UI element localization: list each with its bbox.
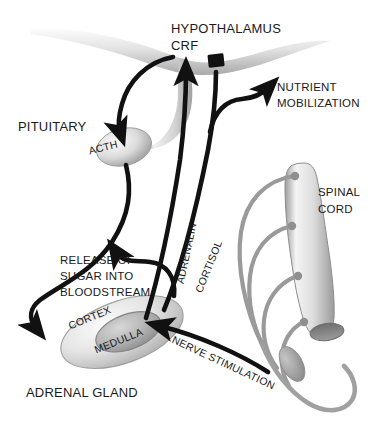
label-spinal-line2: CORD [318,203,353,215]
nerve-dot-1 [291,172,299,180]
nerve-dot-2 [288,222,296,230]
label-release-line2: SUGAR INTO [60,270,133,282]
label-nutrient-line2: MOBILIZATION [277,97,360,109]
label-crf: CRF [171,38,198,53]
label-pituitary: PITUITARY [18,119,87,134]
label-release-line1: RELEASE OF [60,254,134,266]
nerve-dot-3 [294,272,302,280]
label-hypothalamus: HYPOTHALAMUS [171,21,281,36]
nerve-dot-4 [300,318,308,326]
label-spinal-line1: SPINAL [318,186,361,198]
label-adrenal-gland: ADRENAL GLAND [26,385,138,400]
hpa-axis-diagram: HYPOTHALAMUS CRF PITUITARY ACTH NUTRIENT… [0,0,388,442]
label-release-line3: BLOODSTREAM [60,286,150,298]
diagram-canvas: HYPOTHALAMUS CRF PITUITARY ACTH NUTRIENT… [0,0,388,442]
cortisol-inhibition-head [207,53,224,68]
label-nutrient-line1: NUTRIENT [277,81,337,93]
